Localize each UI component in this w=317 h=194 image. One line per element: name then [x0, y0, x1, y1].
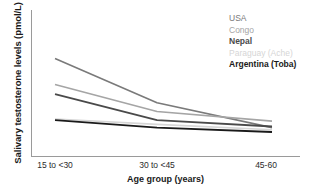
x-tick-label-2: 45-60	[255, 160, 277, 170]
series-line-argentina-toba	[55, 120, 272, 132]
legend-item-paraguay-ache: Paraguay (Ache)	[229, 48, 315, 60]
legend-item-argentina-toba: Argentina (Toba)	[229, 59, 315, 71]
legend-item-usa: USA	[229, 13, 315, 25]
chart-legend: USA Congo Nepal Paraguay (Ache) Argentin…	[229, 13, 315, 71]
chart-screenshot: Salivary testosterone levels (pmol/L) 15…	[0, 0, 317, 194]
y-axis-title: Salivary testosterone levels (pmol/L)	[6, 8, 28, 158]
legend-item-congo: Congo	[229, 25, 315, 37]
x-axis-title: Age group (years)	[31, 174, 300, 184]
legend-item-nepal: Nepal	[229, 36, 315, 48]
x-tick-label-0: 15 to <30	[37, 160, 73, 170]
x-tick-label-1: 30 to <45	[139, 160, 175, 170]
